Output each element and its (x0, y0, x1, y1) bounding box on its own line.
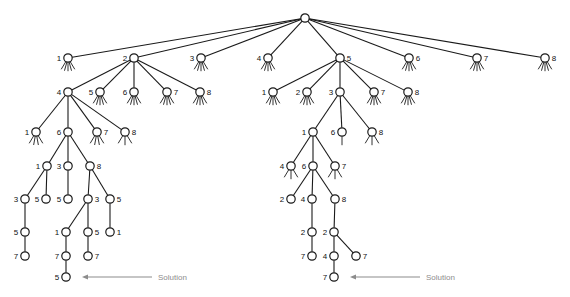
tree-node-7[interactable] (308, 252, 316, 260)
node-label: 5 (347, 54, 352, 63)
node-label: 1 (302, 128, 307, 137)
tree-node-1[interactable] (309, 128, 317, 136)
node-label: 4 (257, 54, 262, 63)
tree-node-6[interactable] (338, 128, 346, 136)
tree-node-1[interactable] (62, 228, 70, 236)
tree-node-5[interactable] (84, 228, 92, 236)
tree-edge (72, 19, 301, 58)
tree-node-7[interactable] (330, 273, 338, 281)
node-label: 8 (132, 128, 137, 137)
node-label: 2 (301, 228, 306, 237)
tree-node-1[interactable] (43, 162, 51, 170)
tree-node-3[interactable] (336, 88, 344, 96)
tree-node-8[interactable] (368, 128, 376, 136)
tree-edge (334, 203, 335, 228)
tree-edge (277, 60, 337, 90)
tree-node-8[interactable] (86, 162, 94, 170)
tree-node-5[interactable] (336, 54, 344, 62)
node-label: 3 (95, 195, 100, 204)
tree-node-6[interactable] (405, 54, 413, 62)
solution-annotations: SolutionSolution (82, 273, 455, 282)
tree-node-2[interactable] (287, 195, 295, 203)
tree-node-7[interactable] (473, 54, 481, 62)
tree-node-6[interactable] (64, 128, 72, 136)
tree-node-3[interactable] (64, 162, 72, 170)
node-label: 1 (117, 228, 122, 237)
solution-annotation-right-label: Solution (426, 273, 455, 282)
tree-node-7[interactable] (21, 252, 29, 260)
tree-node-8[interactable] (121, 128, 129, 136)
node-label: 7 (381, 88, 386, 97)
node-label: 2 (280, 195, 285, 204)
tree-node-4[interactable] (287, 162, 295, 170)
tree-node-4[interactable] (308, 195, 316, 203)
tree-node-1[interactable] (269, 88, 277, 96)
tree-node-3[interactable] (84, 195, 92, 203)
tree-edge (309, 19, 541, 58)
tree-node-7[interactable] (370, 88, 378, 96)
tree-node-3[interactable] (197, 54, 205, 62)
tree-node-8[interactable] (331, 195, 339, 203)
node-label: 8 (97, 162, 102, 171)
tree-node-5[interactable] (42, 195, 50, 203)
node-label: 6 (302, 162, 307, 171)
node-label: 3 (57, 162, 62, 171)
node-label: 3 (190, 54, 195, 63)
tree-node-5[interactable] (21, 228, 29, 236)
tree-node-2[interactable] (303, 88, 311, 96)
node-label: 1 (36, 162, 41, 171)
tree-node-7[interactable] (93, 128, 101, 136)
node-label: 5 (14, 228, 19, 237)
tree-node-1[interactable] (106, 228, 114, 236)
tree-edge (72, 60, 131, 90)
tree-node-7[interactable] (84, 252, 92, 260)
tree-node-6[interactable] (309, 162, 317, 170)
node-label: 2 (323, 228, 328, 237)
node-label: 5 (55, 273, 60, 282)
tree-nodes: 1234567845678123781678168138467355352485… (14, 14, 557, 282)
tree-edge (46, 170, 47, 195)
tree-node-7[interactable] (331, 162, 339, 170)
node-label: 4 (280, 162, 285, 171)
tree-node-5[interactable] (64, 195, 72, 203)
tree-node-8[interactable] (541, 54, 549, 62)
tree-node-1[interactable] (64, 54, 72, 62)
node-label: 6 (416, 54, 421, 63)
unexpanded-branch-stub (98, 136, 100, 145)
unexpanded-branch-stub (118, 136, 123, 144)
tree-edge (71, 94, 121, 129)
tree-node-8[interactable] (404, 88, 412, 96)
unexpanded-branch-stub (293, 170, 298, 178)
node-label: 7 (14, 252, 19, 261)
tree-node-root[interactable] (301, 14, 309, 22)
tree-node-4[interactable] (330, 252, 338, 260)
node-label: 7 (342, 162, 347, 171)
tree-node-7[interactable] (352, 252, 360, 260)
node-label: 7 (363, 252, 368, 261)
node-label: 1 (57, 54, 62, 63)
tree-edge (92, 170, 108, 196)
tree-edge (70, 136, 87, 163)
tree-node-4[interactable] (264, 54, 272, 62)
tree-node-1[interactable] (32, 128, 40, 136)
tree-node-6[interactable] (130, 88, 138, 96)
tree-edge (39, 95, 66, 128)
tree-node-3[interactable] (21, 195, 29, 203)
unexpanded-branch-stub (38, 136, 43, 144)
tree-edge (27, 169, 44, 195)
node-label: 2 (296, 88, 301, 97)
tree-node-7[interactable] (62, 252, 70, 260)
tree-node-2[interactable] (330, 228, 338, 236)
tree-node-8[interactable] (196, 88, 204, 96)
tree-edge (88, 170, 90, 195)
tree-node-4[interactable] (64, 88, 72, 96)
tree-node-5[interactable] (62, 273, 70, 281)
tree-node-2[interactable] (308, 228, 316, 236)
tree-node-5[interactable] (106, 195, 114, 203)
tree-node-5[interactable] (96, 88, 104, 96)
tree-node-7[interactable] (163, 88, 171, 96)
node-label: 3 (329, 88, 334, 97)
node-label: 6 (57, 128, 62, 137)
tree-node-2[interactable] (130, 54, 138, 62)
unexpanded-branch-stub (29, 136, 34, 144)
